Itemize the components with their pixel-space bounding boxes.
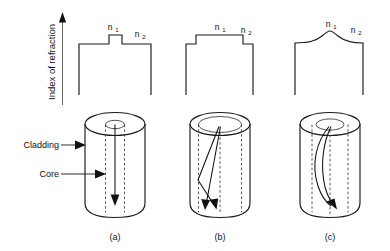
profile-b: n 1 n 2: [186, 22, 253, 95]
fiber-c-ray-path-2: [323, 127, 336, 207]
core-label: Core: [39, 169, 59, 179]
profile-c-curve: [295, 31, 363, 95]
profile-a-core-index-sub: 1: [115, 27, 119, 33]
profile-a-clad-index-sub: 2: [142, 34, 146, 40]
core-arrowhead-icon: [95, 170, 106, 179]
fiber-c: (c): [300, 113, 360, 243]
caption-c: (c): [325, 232, 336, 242]
profile-a-curve: [79, 35, 151, 95]
fiber-b-ray-path-2: [206, 127, 221, 206]
profile-c-core-index-label: n: [326, 19, 331, 29]
profile-b-core-index-sub: 1: [222, 27, 226, 33]
profile-c: n 1 n 2: [295, 19, 363, 95]
profile-b-curve: [186, 35, 253, 95]
cladding-arrowhead-icon: [75, 141, 86, 150]
fiber-a: (a): [85, 113, 145, 243]
optical-fiber-figure: Index of refraction n 1 n 2 n 1 n 2 n 1 …: [0, 0, 390, 251]
profile-c-clad-index-sub: 2: [358, 30, 362, 36]
fiber-b-ray-arrowhead-icon-2: [201, 199, 210, 210]
axis-arrowhead-icon: [59, 12, 66, 23]
profile-a: n 1 n 2: [79, 22, 151, 95]
index-axis: Index of refraction: [46, 12, 66, 105]
callout-core: Core: [39, 169, 106, 179]
caption-b: (b): [215, 232, 226, 242]
callout-cladding: Cladding: [23, 140, 86, 150]
figure-canvas: Index of refraction n 1 n 2 n 1 n 2 n 1 …: [0, 0, 390, 251]
fiber-a-ray-arrowhead-icon: [111, 195, 120, 207]
profile-a-core-index-label: n: [108, 22, 113, 32]
profile-c-core-index-sub: 1: [333, 24, 337, 30]
fiber-b-ray-arrowhead-icon-1: [209, 199, 218, 210]
caption-a: (a): [110, 232, 121, 242]
profile-b-clad-index-label: n: [241, 25, 246, 35]
cladding-label: Cladding: [23, 140, 59, 150]
profile-b-core-index-label: n: [215, 22, 220, 32]
profile-b-clad-index-sub: 2: [248, 30, 252, 36]
profile-c-clad-index-label: n: [351, 25, 356, 35]
profile-a-clad-index-label: n: [135, 29, 140, 39]
axis-label: Index of refraction: [46, 24, 57, 100]
fiber-b: (b): [190, 113, 250, 243]
